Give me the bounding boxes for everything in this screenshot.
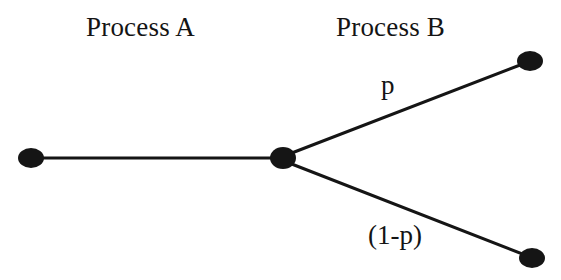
- upper-branch-probability-label: p: [381, 72, 395, 99]
- lower-branch-probability-label: (1-p): [368, 222, 422, 249]
- start-node: [18, 148, 44, 168]
- upper-end-node: [517, 51, 543, 71]
- probabilistic-process-diagram: Process A Process B p (1-p): [0, 0, 561, 280]
- process-a-label: Process A: [86, 14, 195, 41]
- lower-end-node: [519, 248, 545, 268]
- diagram-canvas: [0, 0, 561, 280]
- process-b-label: Process B: [336, 14, 445, 41]
- upper-branch-edge: [284, 62, 528, 156]
- junction-node: [270, 147, 296, 169]
